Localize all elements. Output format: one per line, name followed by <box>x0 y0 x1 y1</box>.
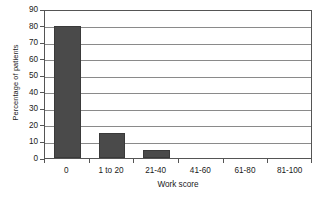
y-axis-tick-label: 0 <box>12 155 38 163</box>
x-axis-title: Work score <box>44 180 312 189</box>
x-axis-tick <box>267 159 268 163</box>
y-axis-tick-label: 30 <box>12 105 38 113</box>
x-axis-tick-label: 21-40 <box>133 166 178 176</box>
bar-series <box>45 11 311 158</box>
x-axis-tick <box>311 159 312 163</box>
x-axis-tick-label: 81-100 <box>267 166 312 176</box>
y-axis-tick-label: 90 <box>12 6 38 14</box>
y-axis-tick-label: 50 <box>12 72 38 80</box>
y-axis-tick-label: 20 <box>12 122 38 130</box>
bar-slot <box>90 11 135 158</box>
x-axis-tick <box>44 159 45 163</box>
x-axis-tick <box>133 159 134 163</box>
plot-area <box>44 10 312 159</box>
bar-slot <box>224 11 269 158</box>
bar-chart-figure: Percentage of patients 01020304050607080… <box>0 0 324 202</box>
bar-slot <box>268 11 313 158</box>
bar-slot <box>45 11 90 158</box>
x-axis-tick-label: 61-80 <box>223 166 268 176</box>
y-axis-tick-label: 10 <box>12 138 38 146</box>
y-axis-tick-label: 40 <box>12 89 38 97</box>
y-axis-tick-label: 60 <box>12 56 38 64</box>
y-axis-tick-label: 80 <box>12 22 38 30</box>
x-axis-ticks <box>44 159 312 163</box>
x-axis-tick-label: 1 to 20 <box>89 166 134 176</box>
bar <box>54 26 81 158</box>
y-axis-tick-label: 70 <box>12 39 38 47</box>
x-axis-tick <box>178 159 179 163</box>
bar <box>143 150 170 158</box>
x-axis-tick-labels: 01 to 2021-4041-6061-8081-100 <box>44 166 312 178</box>
x-axis-tick-label: 41-60 <box>178 166 223 176</box>
cropped-caption-line <box>0 196 324 202</box>
bar-slot <box>134 11 179 158</box>
y-axis-tick-labels: 0102030405060708090 <box>12 10 38 159</box>
x-axis-tick <box>223 159 224 163</box>
x-axis-tick <box>89 159 90 163</box>
bar <box>99 133 126 158</box>
bar-slot <box>179 11 224 158</box>
x-axis-tick-label: 0 <box>44 166 89 176</box>
